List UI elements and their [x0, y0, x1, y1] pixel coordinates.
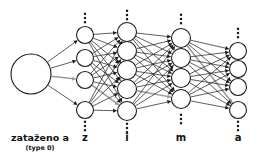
connection-input0-to-z0 — [48, 40, 78, 62]
labels-group: zataženo a (type 0) zima — [11, 132, 241, 152]
connection-input0-to-z1 — [51, 61, 76, 69]
node-m-4 — [172, 90, 191, 109]
node-m-1 — [172, 29, 191, 48]
node-z-4 — [77, 102, 94, 119]
connection-i4-to-m3 — [137, 101, 171, 109]
ellipsis-dot-a-below-2 — [237, 125, 239, 127]
layer-label-i: i — [125, 132, 128, 143]
node-z-2 — [77, 50, 94, 67]
arrowhead-z2-to-i3 — [113, 84, 117, 88]
input-label: zataženo a — [11, 132, 69, 143]
arrowhead-m3-to-a2 — [225, 88, 229, 92]
ellipsis-dot-m-below-1 — [180, 114, 182, 116]
arrowhead-input0-to-z1 — [72, 60, 76, 64]
connection-z1-to-i4 — [91, 65, 121, 103]
ellipsis-dot-z-above-3 — [84, 21, 86, 23]
ellipsis-dot-a-above-2 — [237, 32, 239, 34]
node-i-1 — [118, 23, 137, 42]
ellipsis-dot-i-below-2 — [126, 127, 128, 129]
arrowhead-z3-to-i4 — [113, 109, 117, 113]
connection-m0-to-a0 — [191, 40, 229, 49]
arrowhead-i1-to-m0 — [167, 39, 171, 43]
node-i-2 — [118, 42, 137, 61]
node-z-1 — [77, 27, 94, 44]
arrowhead-m3-to-a3 — [225, 105, 229, 109]
node-i-4 — [118, 80, 137, 99]
arrowhead-i0-to-m0 — [167, 34, 171, 38]
connection-i2-to-m0 — [136, 43, 173, 65]
ellipsis-group — [84, 10, 239, 134]
arrowhead-m0-to-a0 — [225, 46, 229, 50]
connections-group — [48, 31, 233, 113]
input-node — [11, 54, 51, 94]
neural-network-diagram: zataženo a (type 0) zima — [0, 0, 257, 165]
connection-i0-to-m1 — [136, 36, 172, 53]
ellipsis-dot-z-below-3 — [84, 129, 86, 131]
connection-i3-to-m2 — [137, 80, 171, 87]
ellipsis-dot-z-below-1 — [84, 121, 86, 123]
connection-m3-to-a2 — [191, 89, 229, 97]
connection-m1-to-a2 — [190, 63, 230, 83]
node-i-3 — [118, 61, 137, 80]
ellipsis-dot-i-above-1 — [126, 10, 128, 12]
connection-i0-to-m2 — [135, 38, 174, 71]
arrowhead-m2-to-a1 — [225, 69, 229, 73]
ellipsis-dot-a-below-1 — [237, 121, 239, 123]
input-sublabel: (type 0) — [25, 144, 54, 152]
layer-label-m: m — [176, 132, 186, 143]
layer-label-a: a — [235, 132, 242, 143]
ellipsis-dot-m-below-2 — [180, 118, 182, 120]
connection-m1-to-a0 — [191, 52, 229, 57]
arrowhead-input0-to-z2 — [72, 76, 76, 80]
connection-input0-to-z3 — [48, 85, 77, 104]
connection-m0-to-a1 — [190, 43, 230, 65]
ellipsis-dot-a-above-3 — [237, 36, 239, 38]
connection-input0-to-z2 — [51, 76, 75, 79]
ellipsis-dot-a-above-1 — [237, 28, 239, 30]
arrowhead-z2-to-i2 — [113, 71, 117, 75]
arrowhead-input0-to-z3 — [73, 101, 77, 105]
arrowhead-m1-to-a1 — [225, 64, 229, 68]
connection-z0-to-i1 — [93, 38, 117, 47]
ellipsis-dot-m-above-2 — [180, 18, 182, 20]
layer-label-z: z — [82, 132, 88, 143]
ellipsis-dot-z-above-2 — [84, 17, 86, 19]
connection-i0-to-m0 — [137, 33, 171, 37]
ellipsis-dot-m-below-3 — [180, 122, 182, 124]
ellipsis-dot-m-above-1 — [180, 14, 182, 16]
arrowhead-i4-to-m3 — [167, 100, 171, 104]
node-a-3 — [230, 79, 247, 96]
arrowhead-m1-to-a0 — [225, 50, 229, 54]
arrowhead-i2-to-m1 — [167, 59, 171, 63]
arrowhead-m2-to-a2 — [225, 83, 229, 87]
ellipsis-dot-i-below-1 — [126, 123, 128, 125]
node-a-1 — [230, 43, 247, 60]
ellipsis-dot-i-above-3 — [126, 18, 128, 20]
node-i-5 — [118, 102, 137, 121]
nodes-group — [11, 23, 247, 121]
ellipsis-dot-a-below-3 — [237, 129, 239, 131]
node-z-3 — [77, 72, 94, 89]
ellipsis-dot-i-above-2 — [126, 14, 128, 16]
arrowhead-input0-to-z0 — [73, 40, 77, 44]
node-m-2 — [172, 49, 191, 68]
arrowhead-z0-to-i0 — [113, 31, 117, 35]
ellipsis-dot-m-above-3 — [180, 22, 182, 24]
arrowhead-i2-to-m2 — [167, 74, 171, 78]
ellipsis-dot-z-above-1 — [84, 13, 86, 15]
node-a-2 — [230, 61, 247, 78]
node-m-3 — [172, 69, 191, 88]
ellipsis-dot-z-below-2 — [84, 125, 86, 127]
node-a-4 — [230, 102, 247, 119]
